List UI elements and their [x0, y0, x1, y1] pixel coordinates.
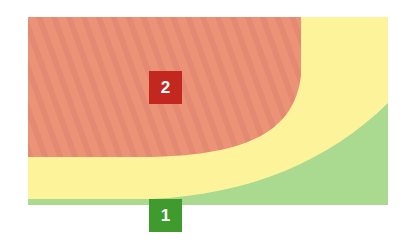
zone-2-label: 2 — [161, 78, 170, 98]
zone-diagram — [0, 0, 412, 248]
zone-2-badge: 2 — [149, 71, 182, 104]
zone-1-badge: 1 — [149, 199, 182, 232]
zone-1-label: 1 — [161, 206, 170, 226]
